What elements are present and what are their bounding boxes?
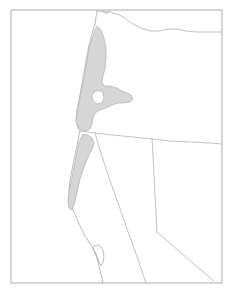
map-frame — [11, 10, 222, 283]
nevada-california-state-line — [95, 133, 146, 283]
map-canvas[interactable] — [0, 0, 233, 294]
northern-international-border — [97, 11, 222, 32]
highlighted-region-hole — [92, 90, 104, 104]
oregon-california-state-line — [80, 131, 222, 144]
map-figure — [0, 0, 233, 294]
nevada-arizona-state-line — [157, 232, 214, 281]
nevada-utah-state-line — [152, 139, 157, 232]
highlighted-region-north[interactable] — [76, 26, 133, 131]
northwest-coast-edge — [95, 11, 97, 24]
highlighted-region-layer[interactable] — [68, 26, 133, 210]
